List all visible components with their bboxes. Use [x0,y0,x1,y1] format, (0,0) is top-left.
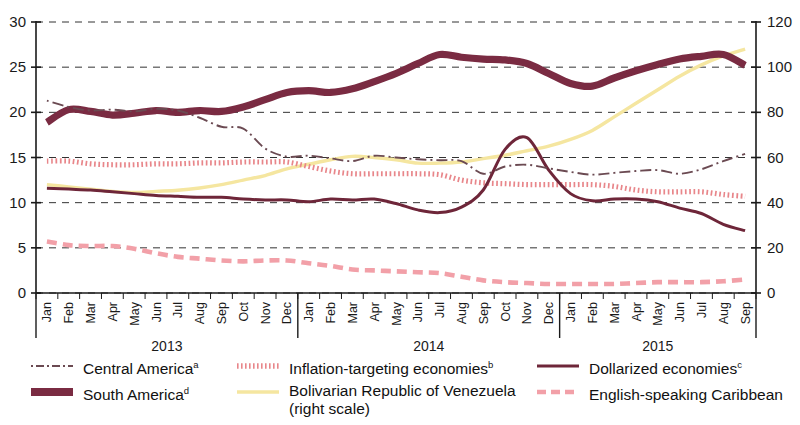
svg-text:Jun: Jun [673,302,687,322]
right-axis-labels: 020406080100120 [767,13,792,301]
svg-text:Jan: Jan [564,302,578,322]
data-series-group [47,49,745,284]
month-tick-labels: JanFebMarAprMayJunJulAugSepOctNovDecJanF… [40,301,752,325]
legend-label-dollarized: Dollarized economiesc [589,356,742,378]
svg-text:Jul: Jul [695,302,709,318]
svg-text:Dec: Dec [280,302,294,324]
svg-text:Feb: Feb [324,302,338,324]
svg-text:Oct: Oct [237,301,251,321]
svg-text:Jan: Jan [302,302,316,322]
legend-key-caribbean [536,385,580,399]
svg-text:Aug: Aug [455,302,469,324]
svg-text:Jan: Jan [40,302,54,322]
legend-key-venezuela [236,385,280,399]
svg-text:Sep: Sep [739,302,753,324]
legend-label-venezuela: Bolivarian Republic of Venezuela [289,382,516,400]
svg-text:40: 40 [767,194,784,211]
svg-text:Mar: Mar [84,302,98,324]
legend-key-central-america [30,359,74,373]
legend-sublabel-venezuela: (right scale) [289,400,516,418]
svg-text:80: 80 [767,103,784,120]
legend-label-inflation-targeting: Inflation-targeting economiesb [289,356,493,378]
svg-text:25: 25 [9,58,26,75]
legend-item-central-america: Central Americaa [30,356,199,378]
svg-text:Aug: Aug [717,302,731,324]
svg-text:Apr: Apr [368,302,382,321]
legend-key-inflation-targeting [236,359,280,373]
svg-text:0: 0 [767,284,775,301]
svg-text:Jun: Jun [411,302,425,322]
svg-text:Jul: Jul [171,302,185,318]
svg-text:100: 100 [767,58,792,75]
left-axis-labels: 051015202530 [9,13,26,301]
svg-text:5: 5 [18,239,26,256]
x-axis-ticks [36,293,756,299]
svg-text:10: 10 [9,194,26,211]
legend-label-central-america: Central Americaa [83,356,199,378]
svg-text:May: May [390,301,404,325]
svg-text:May: May [651,301,665,325]
chart-figure: 051015202530 020406080100120 JanFebMarAp… [0,0,800,425]
series-line-dollarized-economies [47,137,745,231]
svg-text:120: 120 [767,13,792,30]
legend-label-south-america: South Americad [83,382,189,404]
svg-text:30: 30 [9,13,26,30]
svg-text:Feb: Feb [586,302,600,324]
legend-key-dollarized [536,359,580,373]
svg-text:Sep: Sep [215,302,229,324]
svg-text:Apr: Apr [106,302,120,321]
svg-text:Nov: Nov [259,301,273,324]
legend-item-dollarized: Dollarized economiesc [536,356,742,378]
svg-text:20: 20 [767,239,784,256]
legend-key-south-america [30,385,74,399]
svg-text:Jun: Jun [150,302,164,322]
svg-text:20: 20 [9,103,26,120]
svg-text:Apr: Apr [630,302,644,321]
svg-text:Jul: Jul [433,302,447,318]
svg-text:60: 60 [767,149,784,166]
svg-text:Sep: Sep [477,302,491,324]
legend-item-south-america: South Americad [30,382,189,404]
legend-item-venezuela: Bolivarian Republic of Venezuela (right … [236,382,516,418]
svg-text:Feb: Feb [62,302,76,324]
svg-text:0: 0 [18,284,26,301]
svg-text:Aug: Aug [193,302,207,324]
legend-item-caribbean: English-speaking Caribbean [536,382,783,404]
svg-text:Dec: Dec [542,302,556,324]
svg-text:15: 15 [9,149,26,166]
chart-legend: Central Americaa Inflation-targeting eco… [0,352,800,425]
svg-text:Oct: Oct [499,301,513,321]
legend-item-inflation-targeting: Inflation-targeting economiesb [236,356,493,378]
svg-text:May: May [128,301,142,325]
legend-label-caribbean: English-speaking Caribbean [589,382,783,404]
svg-text:Nov: Nov [520,301,534,324]
svg-text:Mar: Mar [608,302,622,324]
svg-text:Mar: Mar [346,302,360,324]
